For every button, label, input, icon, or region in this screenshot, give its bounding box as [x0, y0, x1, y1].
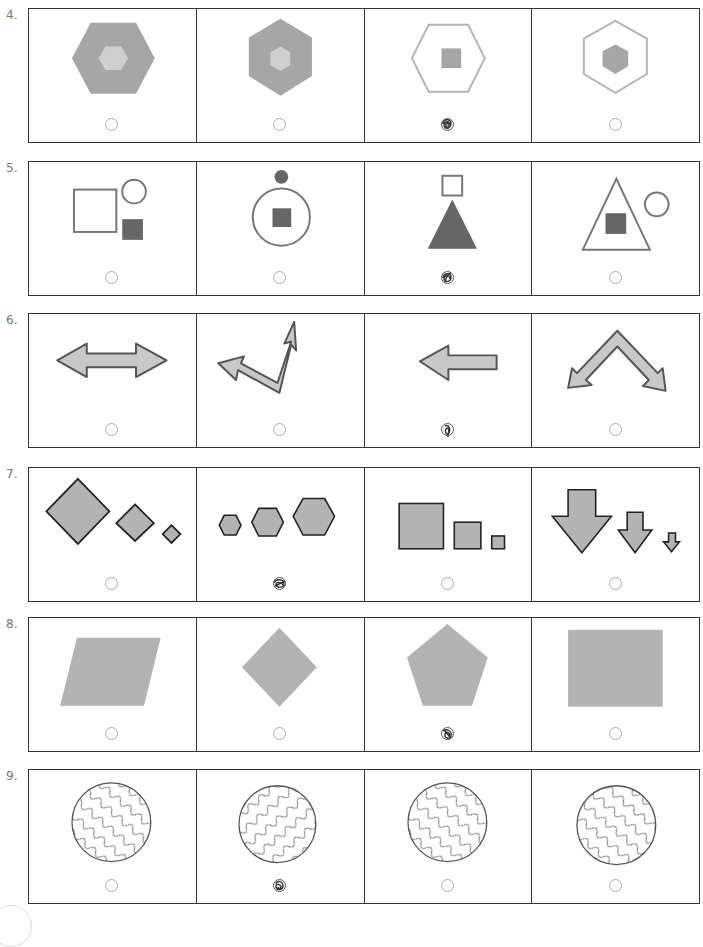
option-5b — [197, 162, 365, 295]
option-5a — [29, 162, 197, 295]
question-row-6 — [28, 313, 700, 448]
answer-bubble-marked[interactable] — [273, 879, 286, 892]
scribble-mark-icon — [439, 725, 456, 742]
answer-bubble-marked[interactable] — [441, 271, 454, 284]
answer-bubble[interactable] — [609, 577, 622, 590]
scribble-mark-icon — [271, 877, 288, 894]
scribble-mark-icon — [439, 116, 456, 133]
option-7b — [197, 468, 365, 601]
answer-bubble[interactable] — [609, 118, 622, 131]
option-5d — [532, 162, 699, 295]
answer-bubble-marked[interactable] — [441, 727, 454, 740]
question-number: 5. — [6, 161, 17, 175]
scribble-mark-icon — [439, 421, 456, 438]
answer-bubble[interactable] — [609, 271, 622, 284]
option-8d — [532, 618, 699, 751]
question-row-7 — [28, 467, 700, 602]
question-row-5 — [28, 161, 700, 296]
question-number: 8. — [6, 617, 17, 631]
option-8b — [197, 618, 365, 751]
option-4c — [365, 9, 533, 142]
option-6c — [365, 314, 533, 447]
question-number: 9. — [6, 769, 17, 783]
scribble-mark-icon — [439, 269, 456, 286]
answer-bubble-marked[interactable] — [273, 577, 286, 590]
option-9d — [532, 770, 699, 903]
answer-bubble[interactable] — [609, 727, 622, 740]
option-4b — [197, 9, 365, 142]
option-4d — [532, 9, 699, 142]
question-row-9 — [28, 769, 700, 904]
option-8c — [365, 618, 533, 751]
option-6b — [197, 314, 365, 447]
option-5c — [365, 162, 533, 295]
option-7d — [532, 468, 699, 601]
answer-bubble[interactable] — [441, 879, 454, 892]
answer-bubble-marked[interactable] — [441, 118, 454, 131]
option-6d — [532, 314, 699, 447]
option-7a — [29, 468, 197, 601]
question-row-4 — [28, 8, 700, 143]
question-number: 6. — [6, 313, 17, 327]
option-9a — [29, 770, 197, 903]
option-6a — [29, 314, 197, 447]
option-8a — [29, 618, 197, 751]
answer-bubble-marked[interactable] — [441, 423, 454, 436]
page-corner-decoration — [0, 905, 32, 947]
option-9c — [365, 770, 533, 903]
question-number: 4. — [6, 8, 17, 22]
option-7c — [365, 468, 533, 601]
question-row-8 — [28, 617, 700, 752]
scribble-mark-icon — [271, 575, 288, 592]
answer-bubble[interactable] — [609, 423, 622, 436]
option-9b — [197, 770, 365, 903]
option-4a — [29, 9, 197, 142]
answer-bubble[interactable] — [441, 577, 454, 590]
question-number: 7. — [6, 467, 17, 481]
answer-bubble[interactable] — [609, 879, 622, 892]
